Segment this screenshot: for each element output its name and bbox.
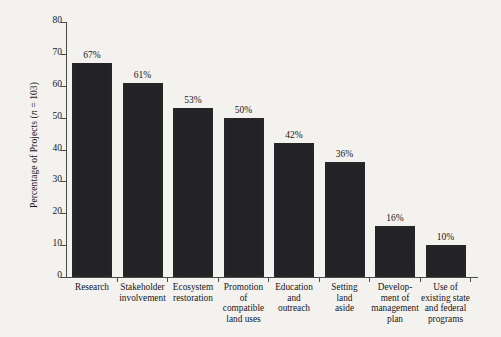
x-category-label-line: management <box>366 303 424 314</box>
y-tick-label: 80 <box>53 15 63 25</box>
x-category-label-line: outreach <box>265 303 323 314</box>
bar-value-label: 50% <box>224 105 264 115</box>
x-category-label-line: plan <box>366 314 424 325</box>
bar-group: 50% <box>224 22 264 277</box>
bar <box>325 162 365 277</box>
bar <box>173 108 213 277</box>
x-category-label: Research <box>63 282 121 293</box>
x-category-label-line: Ecosystem <box>164 282 222 293</box>
bar-group: 67% <box>72 22 112 277</box>
bar-value-label: 42% <box>274 130 314 140</box>
x-category-label-line: Use of <box>417 282 475 293</box>
x-axis-line <box>66 277 478 278</box>
bar-group: 61% <box>123 22 163 277</box>
plot-area: 01020304050607080 67%61%53%50%42%36%16%1… <box>66 22 478 277</box>
bar-group: 36% <box>325 22 365 277</box>
bar <box>375 226 415 277</box>
bar <box>72 63 112 277</box>
bar-value-label: 36% <box>325 149 365 159</box>
y-axis-title-prefix: Percentage of Projects ( <box>29 115 39 208</box>
y-tick-label: 30 <box>53 174 63 184</box>
y-axis-title-italic-n: n <box>29 110 39 115</box>
x-category-label-line: involvement <box>114 293 172 304</box>
x-category-label: Settinglandaside <box>316 282 374 314</box>
x-category-label: Educationandoutreach <box>265 282 323 314</box>
x-category-label-line: Research <box>63 282 121 293</box>
x-category-label-line: Stakeholder <box>114 282 172 293</box>
x-category-label: Use ofexisting stateand federalprograms <box>417 282 475 324</box>
bar-value-label: 53% <box>173 95 213 105</box>
bar-group: 10% <box>426 22 466 277</box>
y-tick-label: 40 <box>53 143 63 153</box>
bar <box>123 83 163 277</box>
x-category-label: Stakeholderinvolvement <box>114 282 172 303</box>
x-category-label: Promotionofcompatibleland uses <box>215 282 273 324</box>
bar-group: 16% <box>375 22 415 277</box>
y-axis-title-suffix: = 103) <box>29 82 39 110</box>
x-category-label-line: aside <box>316 303 374 314</box>
y-tick-label: 60 <box>53 79 63 89</box>
y-axis-title: Percentage of Projects (n = 103) <box>29 45 39 245</box>
y-tick-label: 70 <box>53 47 63 57</box>
bar <box>274 143 314 277</box>
bar-value-label: 16% <box>375 213 415 223</box>
y-tick-label: 20 <box>53 206 63 216</box>
bar-group: 42% <box>274 22 314 277</box>
x-category-label-line: programs <box>417 314 475 325</box>
bar-value-label: 61% <box>123 70 163 80</box>
x-category-label: Develop-ment ofmanagementplan <box>366 282 424 324</box>
x-category-label-line: ment of <box>366 293 424 304</box>
x-category-label-line: and <box>265 293 323 304</box>
y-tick-label: 50 <box>53 111 63 121</box>
x-category-label-line: existing state <box>417 293 475 304</box>
x-category-label-line: and federal <box>417 303 475 314</box>
bar-chart-figure: Percentage of Projects (n = 103) 0102030… <box>0 0 501 337</box>
x-category-label-line: compatible <box>215 303 273 314</box>
x-category-label-line: land <box>316 293 374 304</box>
x-category-label-line: Promotion <box>215 282 273 293</box>
x-category-label: Ecosystemrestoration <box>164 282 222 303</box>
x-category-label-line: of <box>215 293 273 304</box>
x-category-label-line: land uses <box>215 314 273 325</box>
y-tick-label: 10 <box>53 238 63 248</box>
bar-value-label: 10% <box>426 232 466 242</box>
x-category-label-line: Setting <box>316 282 374 293</box>
bar-group: 53% <box>173 22 213 277</box>
x-category-label-line: Education <box>265 282 323 293</box>
y-tick-label: 0 <box>57 270 62 280</box>
bar <box>224 118 264 277</box>
bar-value-label: 67% <box>72 50 112 60</box>
x-category-label-line: restoration <box>164 293 222 304</box>
bar <box>426 245 466 277</box>
x-category-label-line: Develop- <box>366 282 424 293</box>
